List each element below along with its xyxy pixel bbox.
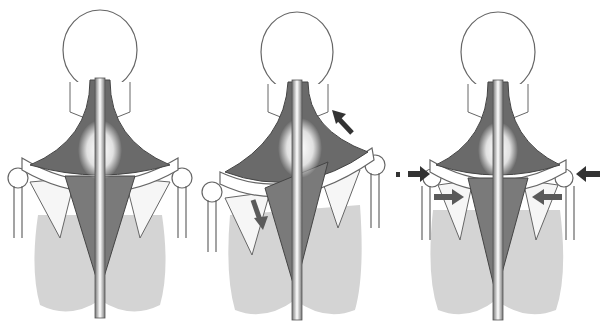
spine — [95, 78, 105, 318]
panel-retraction — [408, 0, 608, 326]
arrow-fragment — [396, 172, 400, 177]
arrow-right-outer-inward — [576, 166, 600, 182]
arm-right — [365, 155, 385, 228]
trapezius-diagram — [0, 0, 608, 326]
figure-elevation — [200, 0, 400, 326]
arrow-upper-trapezius-elevation — [332, 110, 352, 133]
arm-left — [8, 168, 28, 238]
figure-retraction — [408, 0, 608, 326]
figure-neutral — [0, 0, 200, 326]
panel-neutral — [0, 0, 200, 326]
panel-elevation — [200, 0, 400, 326]
spine — [493, 80, 503, 320]
arm-right — [172, 168, 192, 238]
spine — [292, 80, 302, 320]
arm-left — [202, 182, 222, 252]
